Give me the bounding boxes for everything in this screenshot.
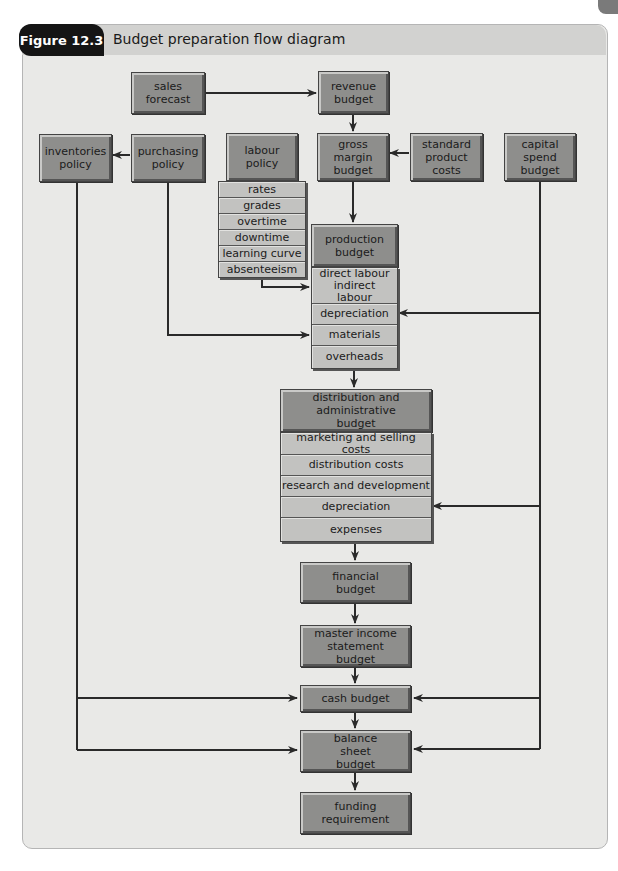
labour-item: grades [219,198,305,214]
node-financial-budget: financial budget [300,562,411,603]
labour-item: learning curve [219,246,305,262]
labour-items-list: rates grades overtime downtime learning … [218,181,306,278]
labour-item: rates [219,182,305,198]
node-revenue-budget: revenue budget [318,71,389,114]
node-distribution-admin-budget: distribution and administrative budget [280,389,432,432]
production-item: materials [312,325,397,346]
node-production-budget: production budget [311,224,398,267]
node-sales-forecast: sales forecast [131,72,205,114]
distribution-item: depreciation [281,497,431,518]
distribution-item: distribution costs [281,455,431,476]
figure-label: Figure 12.3 [19,24,104,56]
node-master-income-statement-budget: master income statement budget [300,625,411,667]
labour-item: overtime [219,214,305,230]
page-corner-tab [598,0,618,14]
node-cash-budget: cash budget [300,685,411,712]
node-funding-requirement: funding requirement [300,792,411,834]
node-gross-margin-budget: gross margin budget [317,133,389,181]
production-item: direct labour indirect labour [312,268,397,304]
production-items-list: direct labour indirect labour depreciati… [311,267,398,369]
distribution-item: expenses [281,518,431,541]
node-inventories-policy: inventories policy [39,134,112,182]
figure-title: Budget preparation flow diagram [113,31,345,47]
distribution-items-list: marketing and selling costs distribution… [280,432,432,542]
node-purchasing-policy: purchasing policy [131,134,205,182]
node-balance-sheet-budget: balance sheet budget [300,730,411,772]
node-standard-product-costs: standard product costs [410,133,483,181]
labour-item: downtime [219,230,305,246]
distribution-item: research and development [281,476,431,497]
production-item: depreciation [312,304,397,325]
production-item: overheads [312,346,397,368]
distribution-item: marketing and selling costs [281,433,431,455]
node-labour-policy: labour policy [226,133,298,181]
node-capital-spend-budget: capital spend budget [504,133,576,181]
labour-item: absenteeism [219,262,305,277]
